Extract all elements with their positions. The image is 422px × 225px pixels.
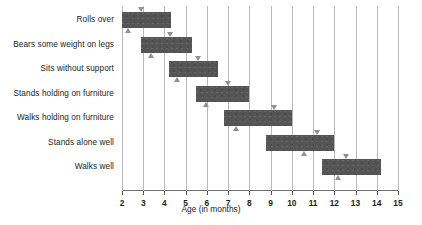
gridline bbox=[292, 6, 293, 191]
category-label: Walks well bbox=[75, 163, 114, 171]
x-axis-tick bbox=[207, 191, 208, 195]
x-axis-tick bbox=[334, 191, 335, 195]
plot-area bbox=[122, 6, 398, 191]
x-axis-tick-label: 4 bbox=[162, 199, 167, 207]
category-label: Stands alone well bbox=[48, 139, 114, 147]
x-axis-tick bbox=[249, 191, 250, 195]
milestone-age-range-chart: Rolls overBears some weight on legsSits … bbox=[0, 0, 422, 225]
percentile-marker-up-icon bbox=[335, 175, 341, 180]
x-axis-tick-label: 8 bbox=[247, 199, 252, 207]
x-axis-tick-label: 7 bbox=[226, 199, 231, 207]
percentile-marker-down-icon bbox=[271, 105, 277, 110]
percentile-marker-up-icon bbox=[233, 126, 239, 131]
gridline bbox=[398, 6, 399, 191]
x-axis-tick-label: 9 bbox=[268, 199, 273, 207]
x-axis-tick-label: 11 bbox=[309, 199, 318, 207]
x-axis-tick bbox=[271, 191, 272, 195]
gridline bbox=[164, 6, 165, 191]
category-label: Bears some weight on legs bbox=[13, 41, 114, 49]
bar bbox=[322, 159, 381, 175]
bar bbox=[196, 86, 249, 102]
x-axis-tick bbox=[313, 191, 314, 195]
x-axis-tick bbox=[398, 191, 399, 195]
x-axis-tick-label: 2 bbox=[120, 199, 125, 207]
category-label: Stands holding on furniture bbox=[13, 90, 114, 98]
x-axis-tick bbox=[292, 191, 293, 195]
x-axis-tick bbox=[164, 191, 165, 195]
percentile-marker-down-icon bbox=[225, 81, 231, 86]
x-axis-tick-label: 13 bbox=[351, 199, 360, 207]
percentile-marker-up-icon bbox=[148, 53, 154, 58]
x-axis-tick bbox=[143, 191, 144, 195]
x-axis-tick-label: 6 bbox=[205, 199, 210, 207]
x-axis-line bbox=[122, 190, 398, 191]
bar bbox=[169, 61, 218, 77]
percentile-marker-up-icon bbox=[301, 151, 307, 156]
percentile-marker-down-icon bbox=[195, 56, 201, 61]
percentile-marker-up-icon bbox=[174, 77, 180, 82]
x-axis-tick-label: 3 bbox=[141, 199, 146, 207]
category-label: Sits without support bbox=[41, 65, 114, 73]
category-label: Walks holding on furniture bbox=[17, 114, 114, 122]
category-label: Rolls over bbox=[77, 16, 114, 24]
x-axis-tick-label: 10 bbox=[287, 199, 296, 207]
category-label-column: Rolls overBears some weight on legsSits … bbox=[0, 0, 114, 225]
percentile-marker-down-icon bbox=[314, 130, 320, 135]
x-axis-tick bbox=[122, 191, 123, 195]
x-axis-tick-label: 5 bbox=[183, 199, 188, 207]
percentile-marker-up-icon bbox=[125, 28, 131, 33]
x-axis-tick bbox=[186, 191, 187, 195]
x-axis-tick bbox=[377, 191, 378, 195]
percentile-marker-up-icon bbox=[203, 102, 209, 107]
gridline bbox=[313, 6, 314, 191]
percentile-marker-down-icon bbox=[138, 7, 144, 12]
bar bbox=[141, 37, 192, 53]
gridline bbox=[122, 6, 123, 191]
bar bbox=[224, 110, 292, 126]
x-axis-tick-label: 12 bbox=[330, 199, 339, 207]
gridline bbox=[186, 6, 187, 191]
gridline bbox=[143, 6, 144, 191]
percentile-marker-down-icon bbox=[167, 32, 173, 37]
percentile-marker-down-icon bbox=[343, 154, 349, 159]
x-axis-tick-label: 14 bbox=[372, 199, 381, 207]
x-axis-tick bbox=[228, 191, 229, 195]
gridline bbox=[249, 6, 250, 191]
bar bbox=[122, 12, 171, 28]
x-axis-tick-label: 15 bbox=[393, 199, 402, 207]
bar bbox=[266, 135, 334, 151]
gridline bbox=[271, 6, 272, 191]
x-axis-tick bbox=[356, 191, 357, 195]
